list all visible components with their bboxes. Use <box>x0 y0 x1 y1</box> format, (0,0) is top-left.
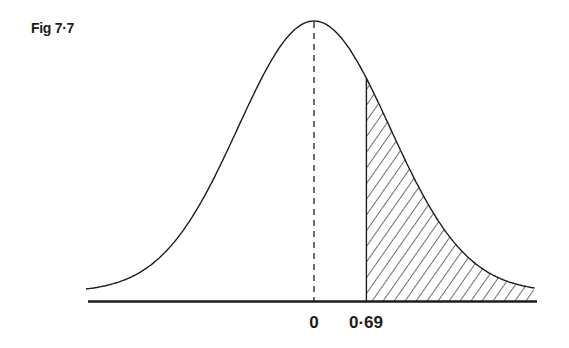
tick-label-069: 0·69 <box>349 313 383 332</box>
shaded-tail-region <box>352 0 552 302</box>
normal-curve-chart: 0 0·69 <box>0 0 569 348</box>
tick-label-0: 0 <box>309 313 318 332</box>
normal-curve <box>86 21 534 289</box>
